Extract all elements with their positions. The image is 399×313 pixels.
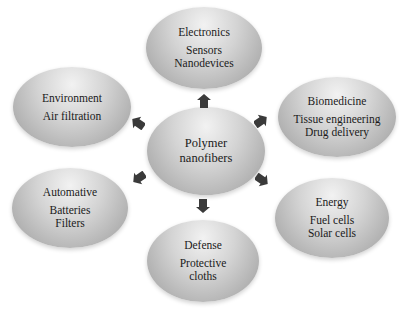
node-automative: Automative Batteries Filters [12,168,128,248]
node-center: Polymer nanofibers [147,107,265,195]
node-environment: Environment Air filtration [13,67,131,147]
node-title: Defense [184,239,222,252]
node-defense: Defense Protective cloths [147,220,259,302]
node-item: Nanodevices [174,57,233,70]
node-biomedicine: Biomedicine Tissue engineering Drug deli… [278,77,396,157]
arrow-down-right-icon [255,173,269,187]
node-title: Environment [42,92,102,105]
arrow-up-icon [197,94,211,108]
arrow-down-icon [196,199,210,213]
node-electronics: Electronics Sensors Nanodevices [146,7,262,89]
arrow-down-left-icon [132,171,146,185]
node-title: Energy [315,196,348,209]
center-line-2: nanofibers [180,151,233,166]
node-item: Protective [180,257,227,270]
node-item: Solar cells [308,227,356,240]
node-item: Drug delivery [305,126,369,139]
arrow-up-left-icon [131,116,145,130]
node-item: Sensors [186,44,222,57]
node-title: Biomedicine [308,95,367,108]
node-item: Batteries [50,204,91,217]
center-line-1: Polymer [185,136,227,151]
node-energy: Energy Fuel cells Solar cells [275,178,389,258]
node-title: Automative [43,186,97,199]
node-item: Filters [55,217,84,230]
node-item: Air filtration [43,110,101,123]
node-item: Fuel cells [310,214,354,227]
node-title: Electronics [178,26,230,39]
node-item: Tissue engineering [294,113,381,126]
arrow-up-right-icon [254,114,268,128]
node-item: cloths [189,270,216,283]
